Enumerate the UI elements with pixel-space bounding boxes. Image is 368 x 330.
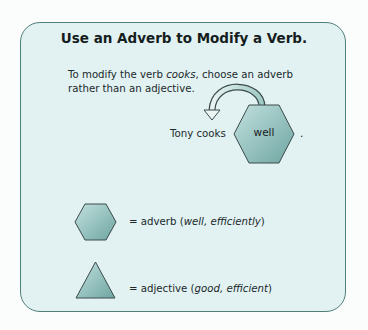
legend-triangle-icon <box>76 262 115 298</box>
legend-adjective-label: = adjective (good, efficient) <box>129 283 272 294</box>
legend-adverb-prefix: = adverb ( <box>129 216 184 227</box>
intro-text: To modify the verb cooks, choose an adve… <box>68 68 318 96</box>
example-sentence: Tony cooks <box>170 128 226 139</box>
legend-adverb-examples: well, efficiently <box>184 216 261 227</box>
legend-adjective-examples: good, efficient <box>195 283 268 294</box>
intro-emphasis-verb: cooks <box>166 69 195 80</box>
legend-adjective-suffix: ) <box>268 283 272 294</box>
legend-adjective-prefix: = adjective ( <box>129 283 195 294</box>
legend-adverb-suffix: ) <box>261 216 265 227</box>
sentence-period: . <box>300 128 303 139</box>
legend-hexagon-icon <box>75 204 116 240</box>
hexagon-word: well <box>234 126 294 138</box>
diagram-graphics <box>0 0 368 330</box>
intro-text-start: To modify the verb <box>68 69 166 80</box>
legend-adverb-label: = adverb (well, efficiently) <box>129 216 265 227</box>
diagram-title: Use an Adverb to Modify a Verb. <box>0 30 368 46</box>
